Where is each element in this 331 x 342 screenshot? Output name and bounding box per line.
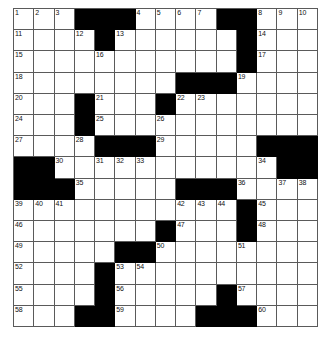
crossword-open-cell[interactable]	[55, 115, 75, 136]
crossword-open-cell[interactable]: 38	[298, 179, 318, 200]
crossword-open-cell[interactable]: 37	[277, 179, 297, 200]
crossword-open-cell[interactable]: 9	[277, 9, 297, 30]
crossword-open-cell[interactable]: 50	[156, 242, 176, 263]
crossword-open-cell[interactable]	[136, 115, 156, 136]
crossword-open-cell[interactable]	[156, 306, 176, 327]
crossword-open-cell[interactable]: 49	[14, 242, 34, 263]
crossword-open-cell[interactable]	[156, 30, 176, 51]
crossword-open-cell[interactable]	[55, 51, 75, 72]
crossword-open-cell[interactable]	[196, 51, 216, 72]
crossword-open-cell[interactable]	[277, 94, 297, 115]
crossword-open-cell[interactable]	[237, 115, 257, 136]
crossword-open-cell[interactable]: 34	[257, 157, 277, 178]
crossword-open-cell[interactable]	[34, 136, 54, 157]
crossword-open-cell[interactable]	[277, 306, 297, 327]
crossword-open-cell[interactable]: 5	[156, 9, 176, 30]
crossword-open-cell[interactable]	[34, 30, 54, 51]
crossword-open-cell[interactable]	[136, 51, 156, 72]
crossword-open-cell[interactable]	[34, 306, 54, 327]
crossword-open-cell[interactable]	[257, 94, 277, 115]
crossword-open-cell[interactable]	[34, 94, 54, 115]
crossword-open-cell[interactable]	[75, 200, 95, 221]
crossword-open-cell[interactable]	[75, 285, 95, 306]
crossword-open-cell[interactable]	[298, 285, 318, 306]
crossword-open-cell[interactable]: 12	[75, 30, 95, 51]
crossword-open-cell[interactable]	[115, 115, 135, 136]
crossword-open-cell[interactable]: 17	[257, 51, 277, 72]
crossword-open-cell[interactable]: 4	[136, 9, 156, 30]
crossword-open-cell[interactable]	[176, 30, 196, 51]
crossword-open-cell[interactable]: 18	[14, 73, 34, 94]
crossword-open-cell[interactable]	[55, 73, 75, 94]
crossword-open-cell[interactable]: 14	[257, 30, 277, 51]
crossword-open-cell[interactable]	[196, 136, 216, 157]
crossword-open-cell[interactable]	[298, 221, 318, 242]
crossword-open-cell[interactable]	[176, 136, 196, 157]
crossword-open-cell[interactable]	[257, 242, 277, 263]
crossword-open-cell[interactable]	[156, 73, 176, 94]
crossword-open-cell[interactable]	[34, 51, 54, 72]
crossword-open-cell[interactable]	[298, 73, 318, 94]
crossword-open-cell[interactable]	[136, 306, 156, 327]
crossword-open-cell[interactable]	[217, 115, 237, 136]
crossword-open-cell[interactable]	[257, 179, 277, 200]
crossword-open-cell[interactable]	[257, 73, 277, 94]
crossword-open-cell[interactable]: 28	[75, 136, 95, 157]
crossword-open-cell[interactable]: 2	[34, 9, 54, 30]
crossword-open-cell[interactable]	[75, 157, 95, 178]
crossword-open-cell[interactable]	[136, 285, 156, 306]
crossword-open-cell[interactable]	[34, 263, 54, 284]
crossword-open-cell[interactable]	[298, 115, 318, 136]
crossword-open-cell[interactable]	[277, 285, 297, 306]
crossword-open-cell[interactable]	[95, 179, 115, 200]
crossword-open-cell[interactable]: 57	[237, 285, 257, 306]
crossword-open-cell[interactable]: 29	[156, 136, 176, 157]
crossword-open-cell[interactable]	[55, 263, 75, 284]
crossword-open-cell[interactable]	[277, 221, 297, 242]
crossword-open-cell[interactable]	[95, 73, 115, 94]
crossword-open-cell[interactable]	[217, 51, 237, 72]
crossword-open-cell[interactable]: 52	[14, 263, 34, 284]
crossword-open-cell[interactable]	[196, 221, 216, 242]
crossword-open-cell[interactable]	[298, 306, 318, 327]
crossword-open-cell[interactable]	[277, 242, 297, 263]
crossword-open-cell[interactable]	[196, 30, 216, 51]
crossword-open-cell[interactable]: 36	[237, 179, 257, 200]
crossword-open-cell[interactable]: 44	[217, 200, 237, 221]
crossword-open-cell[interactable]: 13	[115, 30, 135, 51]
crossword-open-cell[interactable]: 26	[156, 115, 176, 136]
crossword-open-cell[interactable]: 22	[176, 94, 196, 115]
crossword-open-cell[interactable]	[176, 306, 196, 327]
crossword-open-cell[interactable]	[196, 263, 216, 284]
crossword-open-cell[interactable]: 40	[34, 200, 54, 221]
crossword-open-cell[interactable]	[277, 73, 297, 94]
crossword-open-cell[interactable]: 51	[237, 242, 257, 263]
crossword-open-cell[interactable]	[75, 73, 95, 94]
crossword-open-cell[interactable]	[115, 94, 135, 115]
crossword-open-cell[interactable]	[237, 263, 257, 284]
crossword-open-cell[interactable]: 53	[115, 263, 135, 284]
crossword-open-cell[interactable]: 7	[196, 9, 216, 30]
crossword-open-cell[interactable]	[237, 157, 257, 178]
crossword-open-cell[interactable]	[176, 51, 196, 72]
crossword-grid[interactable]: 1234567891011121314151617181920212223242…	[13, 8, 318, 327]
crossword-open-cell[interactable]	[196, 285, 216, 306]
crossword-open-cell[interactable]	[196, 157, 216, 178]
crossword-open-cell[interactable]	[75, 51, 95, 72]
crossword-open-cell[interactable]: 54	[136, 263, 156, 284]
crossword-open-cell[interactable]	[277, 51, 297, 72]
crossword-open-cell[interactable]: 15	[14, 51, 34, 72]
crossword-open-cell[interactable]	[75, 242, 95, 263]
crossword-open-cell[interactable]: 25	[95, 115, 115, 136]
crossword-open-cell[interactable]: 35	[75, 179, 95, 200]
crossword-open-cell[interactable]	[277, 200, 297, 221]
crossword-open-cell[interactable]	[196, 242, 216, 263]
crossword-open-cell[interactable]	[298, 94, 318, 115]
crossword-open-cell[interactable]	[95, 221, 115, 242]
crossword-open-cell[interactable]	[136, 73, 156, 94]
crossword-open-cell[interactable]	[55, 242, 75, 263]
crossword-open-cell[interactable]	[55, 285, 75, 306]
crossword-open-cell[interactable]	[217, 30, 237, 51]
crossword-open-cell[interactable]: 31	[95, 157, 115, 178]
crossword-open-cell[interactable]	[257, 115, 277, 136]
